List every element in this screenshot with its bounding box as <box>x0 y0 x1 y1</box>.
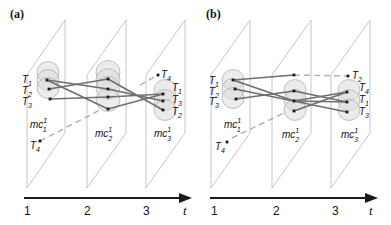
trajectory-point <box>46 79 49 82</box>
trajectory-point <box>293 100 296 103</box>
trajectory-point <box>162 109 165 112</box>
micro-cluster-label-main: mc <box>95 128 108 139</box>
micro-cluster-label-sub: 2 <box>294 136 299 143</box>
trajectory-clustering-diagram: (a)mc11mc12mc13T1T2T3T4T4T1T3T2123t(b)mc… <box>0 0 391 225</box>
micro-cluster-label-sup: 1 <box>108 126 112 133</box>
micro-cluster-label-sub: 1 <box>43 126 47 133</box>
dashed-trajectory <box>294 75 348 76</box>
trajectory-label-sub: 4 <box>221 147 225 154</box>
micro-cluster-label: mc11 <box>224 117 241 133</box>
time-tick-label: 3 <box>143 204 150 218</box>
trajectory-point <box>346 101 349 104</box>
micro-cluster-label: mc12 <box>282 127 299 143</box>
trajectory-label-sub: 1 <box>215 81 219 88</box>
trajectory-label-sub: 3 <box>365 112 369 119</box>
micro-cluster-2 <box>96 61 120 112</box>
trajectory-label-sub: 1 <box>28 80 32 87</box>
trajectory-label: T4 <box>30 140 40 153</box>
trajectory-point <box>347 75 350 78</box>
time-axis-label: t <box>369 203 373 218</box>
micro-cluster-label-sup: 1 <box>295 127 299 134</box>
micro-cluster-label-main: mc <box>154 128 167 139</box>
trajectory-point <box>39 140 42 143</box>
figure-stage: (a)mc11mc12mc13T1T2T3T4T4T1T3T2123t(b)mc… <box>0 0 391 225</box>
trajectory-point <box>234 88 237 91</box>
trajectory-point <box>157 74 160 77</box>
trajectory-point <box>293 110 296 113</box>
dashed-trajectory <box>40 110 100 141</box>
trajectory-label-sub: 3 <box>28 102 32 109</box>
trajectory-label: T3 <box>359 106 369 119</box>
trajectory-label-sub: 4 <box>36 146 40 153</box>
micro-cluster-label-main: mc <box>341 129 354 140</box>
trajectory-point <box>107 96 110 99</box>
trajectory-point <box>226 141 229 144</box>
trajectory-label: T4 <box>215 141 225 154</box>
micro-cluster-label-sub: 2 <box>107 135 112 142</box>
micro-cluster-label-sub: 3 <box>167 135 171 142</box>
panel-label: (a) <box>10 7 24 21</box>
trajectory-point <box>232 79 235 82</box>
micro-cluster-label-sup: 1 <box>237 117 241 124</box>
trajectory-label-sub: 3 <box>178 100 182 107</box>
trajectory-point <box>107 78 110 81</box>
trajectory-label-sub: 2 <box>177 112 182 119</box>
trajectory-point <box>293 90 296 93</box>
micro-cluster-label-sup: 1 <box>167 126 171 133</box>
micro-cluster-label: mc12 <box>95 126 112 142</box>
time-tick-label: 3 <box>332 204 339 218</box>
dashed-trajectory <box>140 75 158 85</box>
micro-cluster-label: mc13 <box>341 127 358 143</box>
axis-arrow-icon <box>365 193 378 203</box>
panel-b: (b)mc11mc12mc13T1T2T3T4T2T4T1T3123t <box>206 7 378 218</box>
micro-cluster-label-sub: 1 <box>237 126 241 133</box>
trajectory-label-sub: 4 <box>365 88 369 95</box>
trajectory-point <box>162 93 165 96</box>
micro-cluster-label-sup: 1 <box>354 127 358 134</box>
trajectory-point <box>162 100 165 103</box>
time-tick-label: 2 <box>273 204 280 218</box>
axis-arrow-icon <box>179 193 192 203</box>
micro-cluster-label: mc11 <box>30 117 47 133</box>
micro-cluster-label-sup: 1 <box>43 117 47 124</box>
time-axis-label: t <box>183 203 187 218</box>
time-plane-1 <box>27 20 65 188</box>
trajectory-point <box>49 98 52 101</box>
micro-cluster-label-main: mc <box>282 129 295 140</box>
micro-cluster-1 <box>222 70 244 109</box>
trajectory-point <box>346 111 349 114</box>
time-tick-label: 2 <box>84 204 91 218</box>
trajectory-point <box>107 108 110 111</box>
trajectory-label-sub: 1 <box>365 100 369 107</box>
time-tick-label: 1 <box>24 204 31 218</box>
micro-cluster-label-sub: 3 <box>354 136 358 143</box>
trajectory-label-sub: 3 <box>215 102 219 109</box>
micro-cluster-label: mc13 <box>154 126 171 142</box>
trajectory-point <box>235 98 238 101</box>
trajectory-point <box>293 74 296 77</box>
trajectory-point <box>346 91 349 94</box>
micro-cluster-label-main: mc <box>30 119 43 130</box>
trajectory-label-sub: 4 <box>167 75 171 82</box>
time-tick-label: 1 <box>211 204 218 218</box>
panel-a: (a)mc11mc12mc13T1T2T3T4T4T1T3T2123t <box>10 7 192 218</box>
micro-cluster-label-main: mc <box>224 119 237 130</box>
trajectory-label-sub: 1 <box>178 88 182 95</box>
trajectory-point <box>107 88 110 91</box>
panel-label: (b) <box>206 7 221 21</box>
trajectory-point <box>48 88 51 91</box>
